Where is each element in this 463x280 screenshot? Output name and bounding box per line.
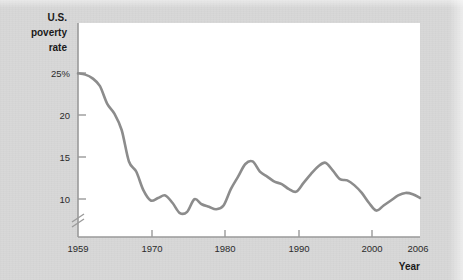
x-tick-label-2006: 2006 (407, 243, 428, 254)
y-axis-title-line3: rate (49, 42, 68, 53)
x-tick-label-1980: 1980 (214, 243, 235, 254)
y-axis-title-line1: U.S. (48, 12, 68, 23)
poverty-rate-figure: 25% 20 15 10 U.S. poverty rate 1959 1970… (0, 0, 463, 280)
x-tick-label-1959: 1959 (67, 243, 88, 254)
y-tick-label-10: 10 (59, 194, 70, 205)
x-tick-label-1990: 1990 (288, 243, 309, 254)
y-tick-label-20: 20 (59, 110, 70, 121)
x-tick-label-2000: 2000 (361, 243, 382, 254)
x-axis-title: Year (399, 261, 420, 272)
y-tick-label-25: 25% (51, 68, 71, 79)
poverty-rate-line-chart: 25% 20 15 10 U.S. poverty rate 1959 1970… (0, 0, 463, 280)
y-axis-title-line2: poverty (31, 27, 68, 38)
y-tick-label-15: 15 (59, 152, 70, 163)
x-tick-label-1970: 1970 (141, 243, 162, 254)
plot-area (78, 23, 420, 237)
